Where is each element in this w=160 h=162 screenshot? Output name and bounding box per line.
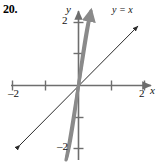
- x-axis: [11, 81, 151, 91]
- coordinate-plot: [0, 0, 160, 162]
- x-tick-label-positive-2: 2: [139, 87, 145, 99]
- line-annotation-label: y = x: [112, 4, 133, 15]
- x-axis-label: x: [150, 84, 155, 96]
- y-tick-label-positive-2: 2: [62, 14, 68, 26]
- figure-container: 20.: [0, 0, 160, 162]
- y-tick-label-negative-2: –2: [57, 140, 68, 152]
- x-tick-label-negative-2: –2: [8, 87, 19, 99]
